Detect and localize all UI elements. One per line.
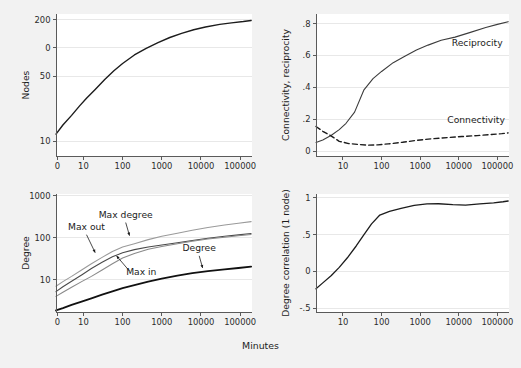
x-tick-label: 10 (338, 317, 349, 327)
y-tick-label: .6 (303, 50, 311, 60)
series-label-connectivity: Connectivity (447, 114, 505, 125)
figure-container: 10500200010100100010000100000Nodes 0.2.4… (0, 0, 521, 368)
y-tick-label: 10 (40, 275, 51, 285)
y-tick-label: .8 (303, 19, 311, 29)
y-axis-title: Nodes (20, 70, 31, 99)
connectivity-reciprocity-svg: 0.2.4.6.810100100010000100000Connectivit… (264, 4, 517, 184)
y-tick-label: 1 (305, 193, 310, 203)
panel-degree-correlation: -.50.5110100100010000100000Degree correl… (264, 184, 517, 340)
x-tick-label: 10 (78, 161, 89, 171)
x-tick-label: 0 (55, 317, 60, 327)
x-tick-label: 10 (78, 317, 89, 327)
x-tick-label: 100000 (481, 317, 513, 327)
panel-connectivity-reciprocity: 0.2.4.6.810100100010000100000Connectivit… (264, 4, 517, 184)
shared-x-axis-label: Minutes (0, 340, 521, 351)
panel-nodes: 10500200010100100010000100000Nodes (4, 4, 260, 184)
x-tick-label: 1000 (151, 161, 172, 171)
series-label-max-degree: Max degree (99, 209, 153, 220)
y-tick-label: 1000 (29, 191, 50, 201)
y-tick-label: .5 (303, 230, 311, 240)
x-tick-label: 100000 (481, 161, 513, 171)
y-tick-label: .2 (303, 114, 311, 124)
nodes-svg: 10500200010100100010000100000Nodes (4, 4, 260, 184)
y-tick-label: 200 (35, 15, 51, 25)
x-tick-label: 10 (338, 161, 349, 171)
x-tick-label: 10000 (188, 317, 215, 327)
plot-area (316, 14, 509, 156)
x-tick-label: 100 (115, 161, 131, 171)
x-tick-label: 10000 (445, 317, 472, 327)
x-tick-label: 1000 (410, 161, 431, 171)
y-axis-title: Degree (20, 236, 31, 270)
y-tick-label: 50 (40, 71, 51, 81)
series-label-max-in: Max in (126, 266, 156, 277)
y-tick-label: -.5 (299, 303, 310, 313)
y-tick-label: 0 (305, 266, 310, 276)
x-tick-label: 100000 (224, 161, 256, 171)
y-tick-label: 10 (40, 136, 51, 146)
y-tick-label: .4 (303, 82, 311, 92)
series-label-reciprocity: Reciprocity (452, 37, 503, 48)
x-tick-label: 10000 (445, 161, 472, 171)
y-tick-label: 0 (305, 146, 310, 156)
x-tick-label: 1000 (410, 317, 431, 327)
x-tick-label: 1000 (151, 317, 172, 327)
degree-svg: 101001000010100100010000100000DegreeMax … (4, 184, 260, 340)
plot-area (56, 14, 252, 156)
series-label-max-out: Max out (68, 221, 105, 232)
x-tick-label: 100 (115, 317, 131, 327)
y-axis-title: Degree correlation (1 node) (280, 189, 291, 316)
x-tick-label: 0 (55, 161, 60, 171)
x-tick-label: 100 (374, 317, 390, 327)
panel-degree: 101001000010100100010000100000DegreeMax … (4, 184, 260, 340)
degree-correlation-svg: -.50.5110100100010000100000Degree correl… (264, 184, 517, 340)
y-tick-label: 0 (45, 43, 50, 53)
x-tick-label: 10000 (188, 161, 215, 171)
x-tick-label: 100 (374, 161, 390, 171)
x-tick-label: 100000 (224, 317, 256, 327)
plot-area (316, 194, 509, 312)
y-tick-label: 100 (35, 233, 51, 243)
series-label-degree: Degree (182, 242, 216, 253)
y-axis-title: Connectivity, reciprocity (280, 28, 291, 140)
plot-area (56, 194, 252, 312)
